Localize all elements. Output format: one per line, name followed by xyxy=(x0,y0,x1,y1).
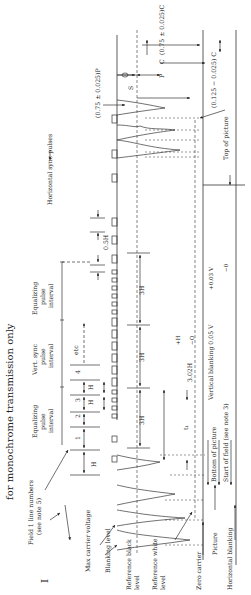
label-bottom-of-picture: Bottom of picture xyxy=(210,426,218,482)
s-bracket xyxy=(117,73,137,77)
dimension-arrows xyxy=(45,40,235,555)
label-S: S xyxy=(127,86,134,90)
label-horizontal-blanking: Horizontal blanking xyxy=(226,528,234,590)
label-eq2-c: interval xyxy=(47,284,54,308)
label-C: C xyxy=(158,59,165,64)
label-P-eq: (0.75 ± 0.025)P xyxy=(94,68,101,118)
label-ref-white-level: level xyxy=(159,575,166,590)
label-3H-2: 3H xyxy=(138,352,145,362)
label-horizontal-sync: Horizontal sync pulses xyxy=(46,134,54,205)
label-ref-white: Reference white xyxy=(151,538,158,590)
label-vs-a: Vert. sync xyxy=(31,343,39,376)
label-eq1-a: Equalizing xyxy=(31,405,39,438)
label-t1-minus: −O xyxy=(189,335,195,345)
label-top-of-picture: Top of picture xyxy=(222,116,230,160)
label-eq1-b: pulse xyxy=(39,413,47,430)
diagram-title: for monochrome transmission only xyxy=(4,323,15,500)
label-t1-plus: +H xyxy=(175,335,181,345)
label-ref-black-level: level xyxy=(133,575,140,590)
label-eq1-c: interval xyxy=(47,409,54,433)
label-line-3: 3 xyxy=(74,398,81,402)
label-3H-1: 3H xyxy=(138,285,145,295)
label-picture: Picture xyxy=(211,532,218,555)
label-vb-tol-minus: −0 xyxy=(223,263,229,272)
label-H-2: H xyxy=(87,399,94,405)
label-field-line-numbers: Field 1 line numbers xyxy=(27,480,34,545)
bottom-dash-boxes xyxy=(160,455,205,545)
sync-pulse-train xyxy=(112,115,117,462)
label-zero-carrier: Zero carrier xyxy=(195,552,202,590)
label-vb-tol-plus: +0.03 V xyxy=(208,266,214,290)
label-H-1: H xyxy=(90,461,97,467)
label-vs-c: interval xyxy=(47,344,54,368)
label-line-2: 2 xyxy=(74,414,81,418)
label-line-4: 4 xyxy=(74,370,81,374)
figure-label: I xyxy=(39,579,50,583)
label-start-of-field: Start of field (see note 3) xyxy=(222,403,229,482)
label-ref-black: Reference black xyxy=(125,539,132,590)
label-P: P xyxy=(158,74,165,78)
label-eq2-b: pulse xyxy=(39,288,47,305)
label-vertical-blanking: Vertical blanking 0.05 V xyxy=(207,324,215,401)
label-C-eq2: (0.125 − 0.025) C xyxy=(210,52,217,108)
video-waveform-top xyxy=(117,100,180,158)
label-line-1: 1 xyxy=(74,436,81,440)
label-t1-value: 3.02H xyxy=(186,362,193,382)
label-field-line-numbers-note: (see note 5) xyxy=(35,498,42,535)
label-vs-b: pulse xyxy=(39,348,47,365)
label-H-3: H xyxy=(87,384,94,390)
interval-ticks xyxy=(70,218,150,475)
label-blanking-level: Blanking level xyxy=(104,528,112,573)
label-C-eq: (0.75 ± 0.025)C xyxy=(158,5,165,55)
label-half-H: 0.5H xyxy=(102,234,109,250)
label-etc: etc xyxy=(72,345,79,355)
label-eq2-a: Equalizing xyxy=(31,282,39,315)
sync-waveform-diagram: for monochrome transmission only I xyxy=(0,0,251,595)
label-max-carrier: Max carrier voltage xyxy=(84,510,92,572)
video-waveform-bottom xyxy=(117,455,190,550)
label-t1: t₁ xyxy=(182,425,189,430)
label-3H-3: 3H xyxy=(138,415,145,425)
